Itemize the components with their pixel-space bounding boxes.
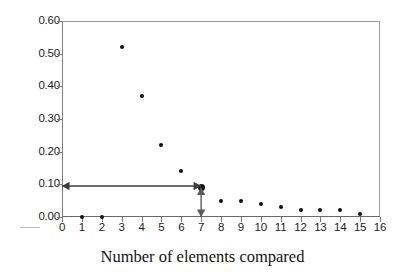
- x-axis-title: Number of elements compared: [0, 247, 405, 267]
- x-axis-tick-mark: [161, 217, 162, 222]
- data-point: [358, 212, 362, 216]
- x-axis-tick-mark: [360, 217, 361, 222]
- y-axis-tick-label: 0.40: [20, 80, 60, 92]
- y-axis-tick-mark: [57, 54, 63, 55]
- x-axis-tick-mark: [221, 217, 222, 222]
- y-axis-tick-mark: [57, 21, 63, 22]
- x-axis-tick-mark: [241, 217, 242, 222]
- x-axis-tick-mark: [142, 217, 143, 222]
- x-axis-tick-label: 1: [71, 222, 93, 234]
- chart-figure: 0.000.100.200.300.400.500.60 01234567891…: [0, 0, 405, 275]
- x-axis-tick-label: 15: [349, 222, 371, 234]
- x-axis-tick-label: 7: [190, 222, 212, 234]
- x-axis-tick-mark: [181, 217, 182, 222]
- x-axis-tick-mark: [62, 217, 63, 222]
- y-axis-tick-mark: [57, 86, 63, 87]
- x-axis-tick-label: 16: [369, 222, 391, 234]
- x-axis-tick-label: 2: [91, 222, 113, 234]
- x-axis-tick-label: 9: [230, 222, 252, 234]
- x-axis-tick-label: 11: [270, 222, 292, 234]
- data-point: [198, 184, 205, 191]
- x-axis-tick-label: 13: [309, 222, 331, 234]
- x-axis-tick-label: 8: [210, 222, 232, 234]
- y-axis-tick-label: 0.00: [20, 211, 60, 223]
- x-axis-tick-label: 0: [51, 222, 73, 234]
- y-axis-tick-label: 0.30: [20, 113, 60, 125]
- data-point: [239, 199, 243, 203]
- x-axis-tick-label: 4: [131, 222, 153, 234]
- y-axis-tick-mark: [57, 152, 63, 153]
- x-axis-tick-label: 14: [329, 222, 351, 234]
- x-axis-tick-mark: [320, 217, 321, 222]
- legend-dash-marker: [20, 227, 40, 228]
- data-point: [219, 199, 223, 203]
- x-axis-tick-mark: [340, 217, 341, 222]
- data-point: [80, 215, 84, 219]
- x-axis-tick-label: 6: [170, 222, 192, 234]
- x-axis-tick-label: 10: [250, 222, 272, 234]
- plot-area: [62, 21, 380, 217]
- y-axis-tick-mark: [57, 184, 63, 185]
- data-point: [100, 215, 104, 219]
- x-axis-tick-label: 3: [111, 222, 133, 234]
- x-axis-tick-mark: [301, 217, 302, 222]
- y-axis-tick-label: 0.50: [20, 48, 60, 60]
- y-axis-tick-label: 0.10: [20, 178, 60, 190]
- data-point: [120, 45, 124, 49]
- x-axis-tick-mark: [122, 217, 123, 222]
- y-axis-tick-mark: [57, 119, 63, 120]
- y-axis-tick-label: 0.60: [20, 15, 60, 27]
- data-point: [140, 94, 144, 98]
- x-axis-tick-mark: [281, 217, 282, 222]
- x-axis-tick-mark: [201, 217, 202, 222]
- x-axis-tick-mark: [380, 217, 381, 222]
- data-point: [279, 205, 283, 209]
- x-axis-tick-mark: [261, 217, 262, 222]
- data-point: [259, 202, 263, 206]
- x-axis-tick-label: 5: [150, 222, 172, 234]
- x-axis-tick-label: 12: [290, 222, 312, 234]
- y-axis-tick-label: 0.20: [20, 146, 60, 158]
